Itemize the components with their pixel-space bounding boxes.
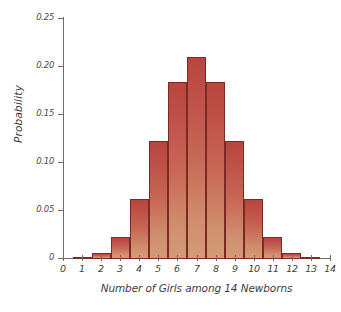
histogram-figure: 0.250.200.150.100.050 012345678910111213… (0, 0, 341, 312)
y-tick-mark (58, 66, 64, 67)
bar (244, 199, 263, 259)
x-tick-mark (158, 255, 159, 261)
x-tick-mark (120, 255, 121, 261)
x-tick-mark (235, 255, 236, 261)
x-tick-label: 12 (282, 263, 302, 274)
y-tick-mark (58, 162, 64, 163)
x-tick-mark (273, 255, 274, 261)
x-tick-label: 11 (263, 263, 283, 274)
y-tick-label: 0.25 (0, 12, 54, 22)
y-tick-mark (58, 210, 64, 211)
bar (130, 199, 149, 259)
y-tick-label: 0.10 (0, 156, 54, 166)
x-tick-mark (216, 255, 217, 261)
x-tick-mark (63, 255, 64, 261)
x-tick-label: 9 (225, 263, 245, 274)
x-tick-label: 1 (72, 263, 92, 274)
bar (168, 82, 187, 259)
y-tick-label: 0.15 (0, 108, 54, 118)
y-tick-mark (58, 18, 64, 19)
x-tick-mark (139, 255, 140, 261)
x-tick-label: 4 (129, 263, 149, 274)
x-tick-mark (177, 255, 178, 261)
x-tick-mark (197, 255, 198, 261)
x-tick-label: 8 (206, 263, 226, 274)
x-axis-title: Number of Girls among 14 Newborns (63, 282, 330, 294)
x-tick-mark (82, 255, 83, 261)
y-axis-line (63, 17, 64, 259)
x-tick-label: 0 (53, 263, 73, 274)
bar (225, 141, 244, 259)
x-tick-label: 7 (187, 263, 207, 274)
x-tick-label: 14 (320, 263, 340, 274)
bar (187, 57, 206, 259)
x-tick-mark (254, 255, 255, 261)
x-tick-label: 13 (301, 263, 321, 274)
y-tick-label: 0 (0, 252, 54, 262)
bar (149, 141, 168, 259)
x-tick-label: 2 (91, 263, 111, 274)
y-axis-title: Probability (12, 74, 24, 154)
bar (206, 82, 225, 259)
x-tick-label: 6 (167, 263, 187, 274)
x-tick-mark (311, 255, 312, 261)
x-tick-label: 10 (244, 263, 264, 274)
x-tick-label: 3 (110, 263, 130, 274)
x-tick-mark (101, 255, 102, 261)
x-tick-mark (292, 255, 293, 261)
x-tick-mark (330, 255, 331, 261)
x-tick-label: 5 (148, 263, 168, 274)
y-tick-label: 0.05 (0, 204, 54, 214)
y-tick-mark (58, 114, 64, 115)
y-tick-label: 0.20 (0, 60, 54, 70)
